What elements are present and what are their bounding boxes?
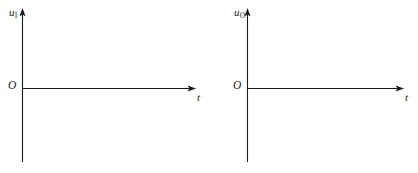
- y-axis-label-output-subscript: O: [240, 11, 245, 20]
- figure-root: uI O t uO O t: [0, 0, 418, 173]
- y-axis-label-output: uO: [234, 7, 245, 18]
- origin-label-input: O: [8, 80, 16, 92]
- y-axis-label-output-symbol: u: [234, 6, 240, 18]
- x-axis-label-output: t: [405, 92, 408, 103]
- axes-panel-output: uO O t: [209, 0, 418, 173]
- x-axis-label-input: t: [197, 92, 200, 103]
- axes-lines-input: [0, 0, 209, 173]
- y-axis-label-input-symbol: u: [9, 6, 15, 18]
- y-axis-label-input-subscript: I: [15, 11, 18, 20]
- origin-label-output: O: [233, 80, 241, 92]
- y-axis-label-input: uI: [9, 7, 17, 18]
- axes-panel-input: uI O t: [0, 0, 209, 173]
